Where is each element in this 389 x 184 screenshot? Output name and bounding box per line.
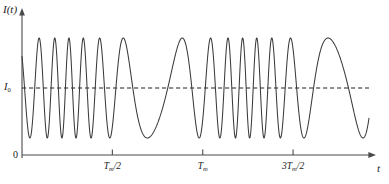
- y-axis-arrowhead: [19, 8, 25, 16]
- y-axis-label: I(t): [3, 4, 17, 15]
- tick-tm-half-subscript: m: [109, 165, 114, 172]
- tick-tm-subscript: m: [203, 165, 208, 172]
- i0-label-main: I: [4, 81, 8, 92]
- origin-label: 0: [13, 150, 18, 160]
- x-tick-marks: [112, 150, 293, 156]
- intensity-time-chart: I(t) I0 t 0 Tm/2 Tm 3Tm/2: [0, 0, 389, 184]
- tick-3tm-half-main: 3T: [282, 161, 292, 171]
- x-axis-label: t: [377, 163, 380, 174]
- x-tick-label-tm: Tm: [189, 162, 217, 172]
- i0-label-subscript: 0: [8, 86, 11, 93]
- tick-3tm-half-subscript: m: [292, 165, 297, 172]
- x-axis-arrowhead: [368, 152, 376, 158]
- plot-canvas: [0, 0, 389, 184]
- x-tick-label-tm-half: Tm/2: [90, 162, 134, 172]
- tick-3tm-half-tail: /2: [297, 161, 304, 171]
- tick-tm-half-tail: /2: [114, 161, 121, 171]
- i0-level-label: I0: [4, 82, 11, 93]
- x-tick-label-3tm-half: 3Tm/2: [267, 162, 319, 172]
